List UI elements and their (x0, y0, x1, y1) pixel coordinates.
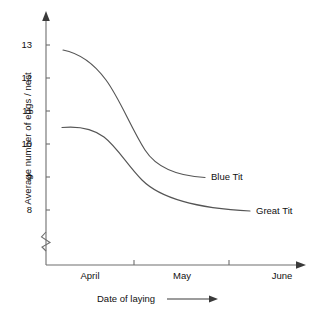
series-line-great-tit (62, 127, 250, 211)
chart-figure: Average number of eggs / nest 13 12 11 1… (0, 0, 320, 318)
x-tick-marks (134, 260, 229, 265)
y-tick-marks (46, 45, 50, 210)
y-axis-arrow-icon (42, 11, 50, 21)
y-tick-label-9: 9 (10, 171, 32, 182)
series-line-blue-tit (63, 50, 205, 178)
x-tick-label-june: June (252, 270, 312, 281)
y-tick-label-13: 13 (10, 39, 32, 50)
series-label-blue-tit: Blue Tit (211, 171, 243, 182)
x-tick-label-may: May (152, 270, 212, 281)
y-tick-label-10: 10 (10, 138, 32, 149)
y-tick-label-8: 8 (10, 204, 32, 215)
y-tick-label-12: 12 (10, 72, 32, 83)
x-axis-arrow-icon (296, 261, 306, 268)
x-tick-label-april: April (60, 270, 120, 281)
x-axis-title: Date of laying (97, 293, 155, 304)
x-axis-title-arrow-icon (165, 292, 225, 306)
series-label-great-tit: Great Tit (256, 205, 292, 216)
y-tick-label-11: 11 (10, 105, 32, 116)
